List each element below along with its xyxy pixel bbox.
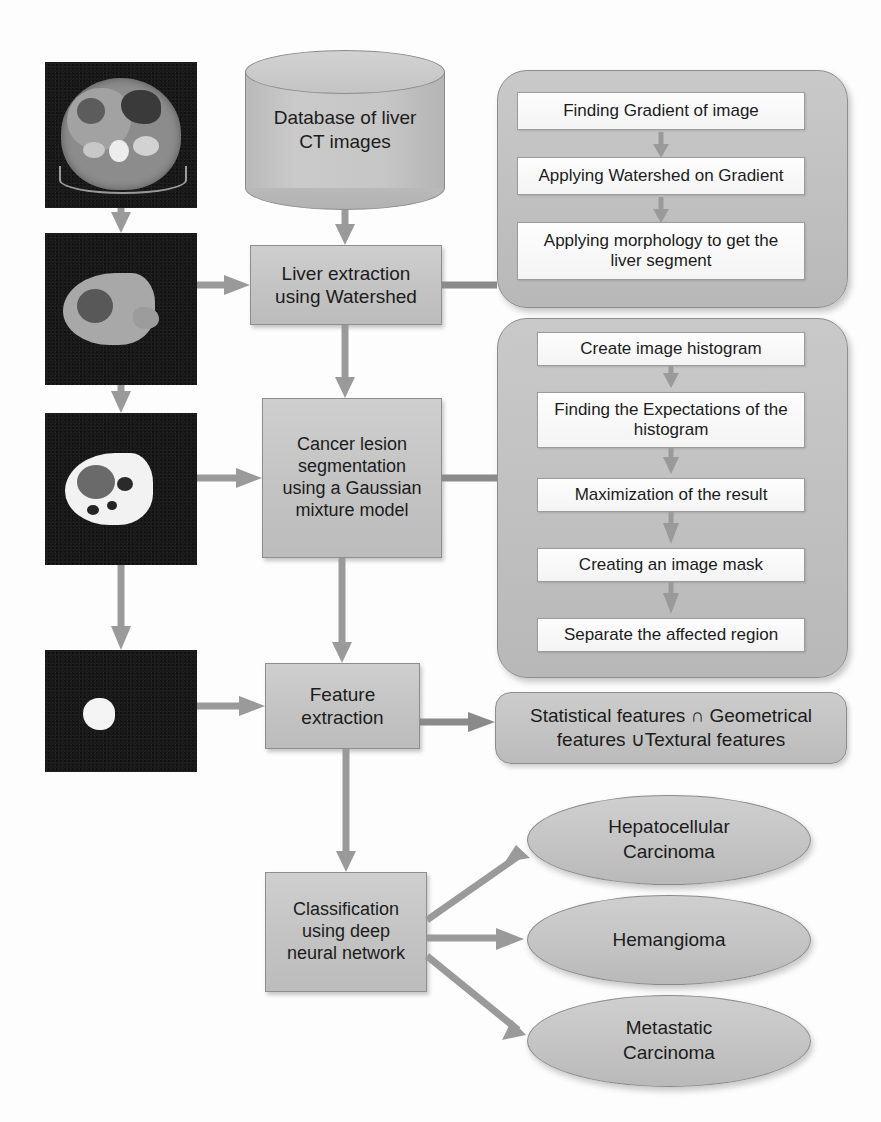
flowchart-diagram: Database of liver CT images Liver extrac… — [0, 0, 881, 1122]
flow-connectors — [0, 0, 881, 1122]
database-label: Database of liver CT images — [245, 106, 445, 154]
